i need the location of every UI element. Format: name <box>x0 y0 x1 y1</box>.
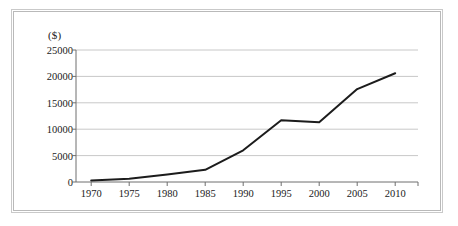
x-axis-tick-label: 2010 <box>385 188 406 199</box>
y-axis-ticks <box>72 50 76 182</box>
x-axis-tick-label: 1985 <box>195 188 216 199</box>
x-axis-ticks <box>91 182 418 186</box>
gridlines <box>76 50 418 156</box>
axis-lines <box>76 50 418 182</box>
chart-figure: ($) 0500010000150002000025000 1970197519… <box>0 0 458 226</box>
x-axis-tick-label: 1975 <box>119 188 140 199</box>
data-series-line <box>91 73 395 180</box>
x-axis-tick-label: 1970 <box>81 188 102 199</box>
series-polyline <box>91 73 395 180</box>
x-axis-tick-label: 1995 <box>271 188 292 199</box>
x-axis-tick-label: 2005 <box>347 188 368 199</box>
x-axis-tick-label: 1980 <box>157 188 178 199</box>
x-axis-tick-label: 2000 <box>309 188 330 199</box>
x-axis-tick-label: 1990 <box>233 188 254 199</box>
